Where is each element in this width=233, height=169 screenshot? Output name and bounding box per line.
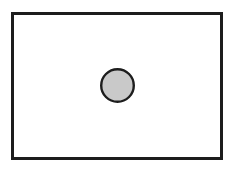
diagram-canvas bbox=[0, 0, 233, 169]
figure-svg bbox=[0, 0, 233, 169]
center-circle bbox=[101, 69, 134, 102]
